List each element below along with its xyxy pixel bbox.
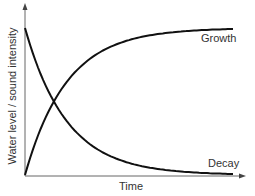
y-axis-label: Water level / sound intensity	[6, 27, 18, 164]
growth-label: Growth	[201, 32, 236, 44]
x-axis-arrow-icon	[239, 174, 246, 179]
decay-label: Decay	[208, 157, 239, 169]
decay-curve	[25, 28, 233, 174]
growth-curve	[25, 29, 233, 175]
x-axis-label: Time	[119, 180, 143, 192]
y-axis-arrow-icon	[23, 3, 28, 10]
chart-canvas: Growth Decay Time Water level / sound in…	[0, 0, 255, 196]
